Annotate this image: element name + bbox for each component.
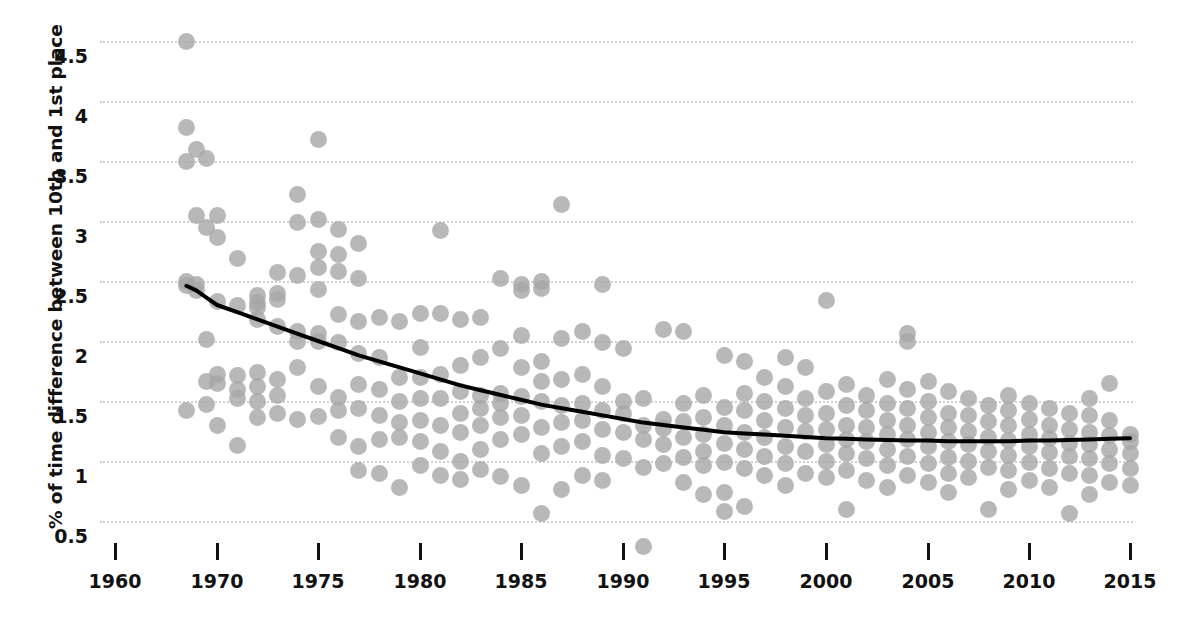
data-point: [594, 276, 611, 293]
data-point: [178, 402, 195, 419]
data-point: [371, 431, 388, 448]
data-point: [391, 313, 408, 330]
data-point: [472, 309, 489, 326]
data-point: [289, 186, 306, 203]
y-tick-label: 0.5: [0, 525, 88, 547]
data-point: [736, 353, 753, 370]
data-point: [980, 397, 997, 414]
data-point: [879, 457, 896, 474]
data-point: [980, 459, 997, 476]
x-tick-label: 1995: [698, 570, 751, 592]
data-point: [513, 388, 530, 405]
data-point: [655, 436, 672, 453]
data-point: [289, 333, 306, 350]
x-tick-label: 1985: [495, 570, 548, 592]
data-point: [920, 373, 937, 390]
data-point: [574, 467, 591, 484]
y-tick-label: 2: [0, 345, 88, 367]
data-point: [249, 409, 266, 426]
data-point: [330, 402, 347, 419]
data-point: [1000, 462, 1017, 479]
x-tick-label: 2015: [1104, 570, 1157, 592]
data-point: [879, 441, 896, 458]
data-point: [472, 349, 489, 366]
data-point: [330, 306, 347, 323]
data-point: [960, 390, 977, 407]
data-point: [736, 424, 753, 441]
x-tick-mark: [520, 543, 523, 560]
data-point: [574, 323, 591, 340]
data-point: [472, 400, 489, 417]
data-point: [533, 393, 550, 410]
data-point: [350, 376, 367, 393]
data-point: [879, 371, 896, 388]
data-point: [716, 484, 733, 501]
gridline: [100, 521, 1133, 523]
scatter-chart: % of time difference between 10th and 1s…: [0, 0, 1203, 621]
data-point: [513, 477, 530, 494]
data-point: [198, 150, 215, 167]
x-tick-label: 2010: [1003, 570, 1056, 592]
data-point: [594, 334, 611, 351]
gridline: [100, 41, 1133, 43]
data-point: [330, 221, 347, 238]
data-point: [269, 318, 286, 335]
data-point: [920, 455, 937, 472]
y-tick-label: 1.5: [0, 405, 88, 427]
data-point: [412, 412, 429, 429]
data-point: [269, 264, 286, 281]
data-point: [432, 467, 449, 484]
data-point: [1081, 467, 1098, 484]
data-point: [330, 429, 347, 446]
data-point: [818, 436, 835, 453]
data-point: [1041, 444, 1058, 461]
data-point: [756, 467, 773, 484]
data-point: [1081, 407, 1098, 424]
data-point: [615, 405, 632, 422]
data-point: [533, 280, 550, 297]
data-point: [188, 282, 205, 299]
x-tick-mark: [622, 543, 625, 560]
data-point: [513, 407, 530, 424]
data-point: [756, 412, 773, 429]
data-point: [797, 443, 814, 460]
y-tick-label: 4.5: [0, 45, 88, 67]
data-point: [879, 395, 896, 412]
data-point: [695, 457, 712, 474]
data-point: [492, 431, 509, 448]
data-point: [350, 313, 367, 330]
data-point: [472, 441, 489, 458]
data-point: [452, 311, 469, 328]
data-point: [960, 407, 977, 424]
data-point: [635, 538, 652, 555]
data-point: [1000, 481, 1017, 498]
data-point: [736, 498, 753, 515]
data-point: [736, 441, 753, 458]
data-point: [940, 484, 957, 501]
data-point: [513, 327, 530, 344]
data-point: [350, 400, 367, 417]
data-point: [777, 419, 794, 436]
data-point: [858, 402, 875, 419]
data-point: [249, 311, 266, 328]
data-point: [716, 347, 733, 364]
gridline: [100, 221, 1133, 223]
data-point: [289, 411, 306, 428]
data-point: [716, 454, 733, 471]
data-point: [858, 433, 875, 450]
data-point: [920, 393, 937, 410]
data-point: [289, 267, 306, 284]
data-point: [756, 429, 773, 446]
data-point: [838, 445, 855, 462]
data-point: [960, 436, 977, 453]
data-point: [350, 345, 367, 362]
data-point: [310, 408, 327, 425]
data-point: [818, 453, 835, 470]
data-point: [899, 400, 916, 417]
data-point: [350, 270, 367, 287]
data-point: [310, 131, 327, 148]
data-point: [574, 433, 591, 450]
data-point: [553, 196, 570, 213]
data-point: [198, 396, 215, 413]
data-point: [1122, 477, 1139, 494]
